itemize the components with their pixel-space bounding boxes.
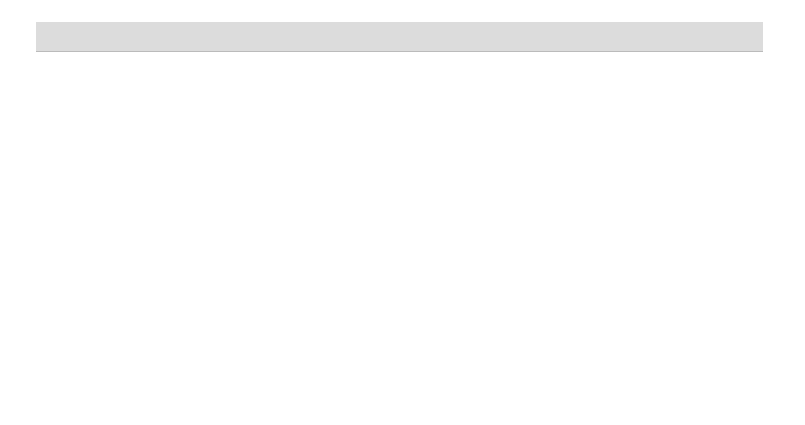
prediction-profiler-chart [0, 0, 805, 425]
